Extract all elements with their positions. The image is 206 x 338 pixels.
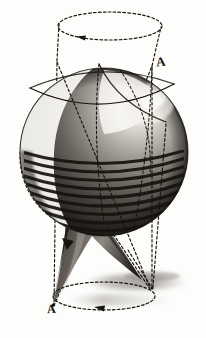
label-a-top: A: [155, 55, 166, 69]
top-ellipse-arrow: [76, 35, 86, 40]
label-a-bottom: A: [47, 303, 56, 316]
top-ellipse: [58, 12, 162, 41]
engraving-plate: A A: [0, 0, 206, 338]
base-ellipse-arrow: [94, 306, 105, 312]
ground-shadow: [66, 272, 189, 307]
figure-svg: [0, 0, 206, 338]
convergence-point: [150, 286, 153, 289]
